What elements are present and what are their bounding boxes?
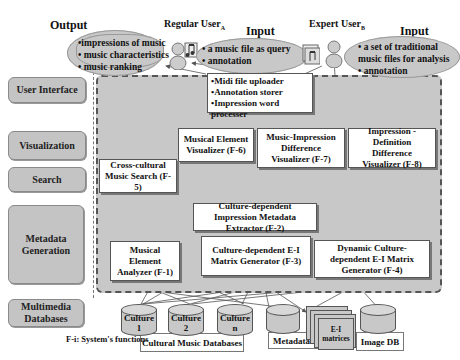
functions-legend: F-i: System's functions	[66, 334, 149, 344]
function-f5-box: Cross-cultural Music Search (F-5)	[99, 159, 177, 193]
layer-search: Search	[8, 167, 86, 192]
ui-item-impression-processer: •Impression word processer	[211, 98, 309, 120]
input-b-item: music files for analysis	[358, 53, 449, 65]
layer-multimedia-databases: Multimedia Databases	[8, 299, 84, 327]
expert-user-sub: B	[361, 25, 365, 31]
layer-divider	[93, 72, 94, 298]
output-item: •impressions of music	[78, 37, 169, 49]
input-b-list: • a set of traditional music files for a…	[358, 41, 449, 77]
function-f6-box: Musical Element Visualizer (F-6)	[178, 128, 254, 162]
layer-visualization: Visualization	[8, 131, 86, 160]
input-a-item: • a music file as query	[202, 43, 291, 55]
function-f8-box: Impression - Definition Difference Visua…	[348, 128, 436, 168]
ei-matrices: E-I matrices	[318, 318, 354, 350]
output-list: •impressions of music • music characteri…	[78, 37, 169, 73]
output-item: • music ranking	[78, 61, 169, 73]
output-heading: Output	[50, 18, 87, 33]
function-f1-box: Musical Element Analyzer (F-1)	[110, 241, 180, 281]
input-a-list: • a music file as query • annotation	[202, 43, 291, 67]
ui-item-annotation-storer: •Annotation storer	[211, 87, 283, 98]
function-f7-box: Music-Impression Difference Visualizer (…	[257, 128, 345, 168]
function-f3-box: Culture-dependent E-I Matrix Generator (…	[201, 236, 311, 276]
image-db-label: Image DB	[356, 332, 404, 351]
metadata-db	[266, 304, 300, 334]
culture-1-db: Culture 1	[121, 304, 157, 336]
culture-n-db: Culture n	[217, 304, 253, 336]
regular-user-label: Regular UserA	[164, 18, 225, 31]
regular-user-name: Regular User	[164, 18, 221, 29]
output-item: • music characteristics	[78, 49, 169, 61]
ui-item-midi-uploader: •Midi file uploader	[211, 76, 284, 87]
culture-n-label: Culture n	[217, 313, 253, 333]
layer-metadata-generation: Metadata Generation	[8, 205, 84, 284]
regular-user-sub: A	[221, 25, 225, 31]
image-db	[360, 304, 396, 334]
ui-functions-box: •Midi file uploader •Annotation storer •…	[207, 73, 313, 113]
input-b-item: • a set of traditional	[358, 41, 449, 53]
input-b-item: • annotation	[358, 65, 449, 77]
function-f2-box: Culture-dependent Impression Metadata Ex…	[193, 203, 317, 231]
input-a-heading: Input	[246, 24, 275, 39]
culture-1-label: Culture 1	[121, 313, 157, 333]
expert-user-name: Expert User	[309, 18, 361, 29]
function-f4-box: Dynamic Culture-dependent E-I Matrix Gen…	[314, 240, 430, 278]
culture-2-db: Culture 2	[168, 304, 204, 336]
expert-user-label: Expert UserB	[309, 18, 365, 31]
layer-user-interface: User Interface	[8, 77, 86, 103]
culture-2-label: Culture 2	[168, 313, 204, 333]
music-files-icon	[302, 44, 320, 66]
expert-user-icon	[324, 40, 344, 68]
input-a-item: • annotation	[202, 55, 291, 67]
